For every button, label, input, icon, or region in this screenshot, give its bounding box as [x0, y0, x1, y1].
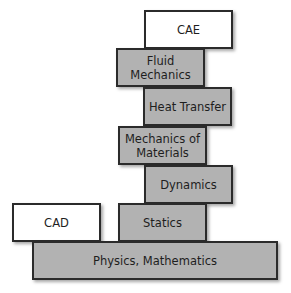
block-label: Physics, Mathematics: [93, 254, 217, 268]
block-label: CAD: [44, 216, 69, 230]
block-label: Mechanics of Materials: [125, 132, 200, 160]
block-label: Dynamics: [160, 178, 217, 192]
block-label: Fluid Mechanics: [130, 54, 190, 82]
block-mechanics-of-materials: Mechanics of Materials: [118, 126, 207, 165]
diagram-canvas: CAE Fluid Mechanics Heat Transfer Mechan…: [0, 0, 291, 293]
block-label: Heat Transfer: [149, 100, 226, 114]
block-fluid-mechanics: Fluid Mechanics: [116, 48, 205, 87]
block-heat-transfer: Heat Transfer: [143, 87, 232, 126]
block-physics-mathematics: Physics, Mathematics: [32, 241, 278, 280]
block-dynamics: Dynamics: [144, 165, 233, 204]
block-label: Statics: [143, 216, 182, 230]
block-statics: Statics: [118, 203, 207, 242]
block-label: CAE: [177, 23, 200, 37]
block-cae: CAE: [144, 10, 233, 49]
block-cad: CAD: [12, 203, 101, 242]
